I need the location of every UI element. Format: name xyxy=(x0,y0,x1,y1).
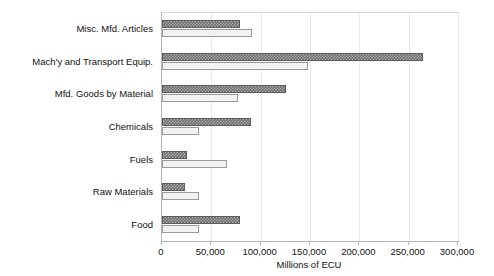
gridline xyxy=(458,13,459,241)
x-tick xyxy=(309,241,310,245)
bar-group xyxy=(162,20,458,38)
bar-group xyxy=(162,216,458,234)
bar-group xyxy=(162,151,458,169)
bar xyxy=(162,53,423,61)
plot-area xyxy=(161,12,459,242)
bar xyxy=(162,192,199,200)
x-tick-label: 250,000 xyxy=(390,246,424,258)
x-axis-tick-labels: 050,000100,000150,000200,000250,000300,0… xyxy=(0,246,494,260)
bar-group xyxy=(162,118,458,136)
bar xyxy=(162,225,199,233)
bar xyxy=(162,29,252,37)
x-axis-title: Millions of ECU xyxy=(161,259,457,271)
x-tick xyxy=(408,241,409,245)
bar-chart: Misc. Mfd. ArticlesMach'y and Transport … xyxy=(0,0,494,276)
y-axis-label: Raw Materials xyxy=(0,186,153,197)
bar xyxy=(162,160,227,168)
bar-group xyxy=(162,53,458,71)
x-tick-label: 100,000 xyxy=(242,246,276,258)
bar-group xyxy=(162,183,458,201)
y-axis-label: Chemicals xyxy=(0,121,153,132)
bar-group xyxy=(162,85,458,103)
x-tick xyxy=(457,241,458,245)
bar xyxy=(162,127,199,135)
x-tick xyxy=(358,241,359,245)
x-tick xyxy=(161,241,162,245)
bar xyxy=(162,118,251,126)
y-axis-label: Food xyxy=(0,218,153,229)
y-axis-label: Misc. Mfd. Articles xyxy=(0,23,153,34)
bar xyxy=(162,62,308,70)
x-tick xyxy=(260,241,261,245)
bar xyxy=(162,94,238,102)
x-tick-label: 150,000 xyxy=(292,246,326,258)
x-axis-ticks xyxy=(161,241,457,245)
bar-series-container xyxy=(162,13,458,241)
y-axis-label: Fuels xyxy=(0,153,153,164)
x-tick xyxy=(210,241,211,245)
bar xyxy=(162,183,185,191)
x-tick-label: 50,000 xyxy=(196,246,225,258)
x-tick-label: 0 xyxy=(158,246,163,258)
bar xyxy=(162,151,187,159)
y-axis-category-labels: Misc. Mfd. ArticlesMach'y and Transport … xyxy=(0,12,153,240)
x-tick-label: 300,000 xyxy=(440,246,474,258)
y-axis-label: Mfd. Goods by Material xyxy=(0,88,153,99)
bar xyxy=(162,85,286,93)
x-tick-label: 200,000 xyxy=(341,246,375,258)
y-axis-label: Mach'y and Transport Equip. xyxy=(0,55,153,66)
bar xyxy=(162,216,240,224)
bar xyxy=(162,20,240,28)
